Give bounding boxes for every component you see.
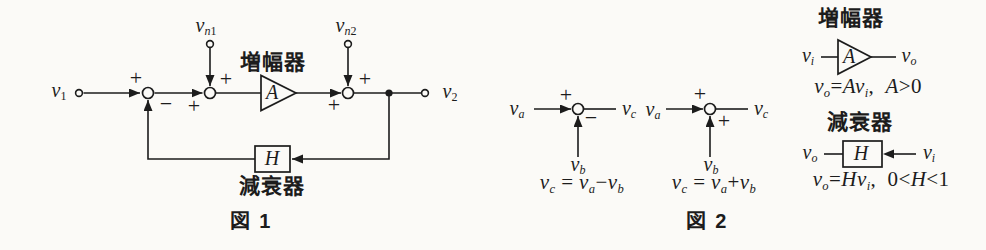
fig2-add-input-a-label: va xyxy=(646,99,661,121)
fig1-sum2-input-plus-sign: + xyxy=(188,95,200,117)
fig2-att-equation: vo=Hvi, 0<H<1 xyxy=(813,169,950,192)
attdef-arrowhead xyxy=(883,150,894,159)
terminal-v2 xyxy=(422,90,429,97)
fig2-att-output-label: vo xyxy=(803,142,818,164)
fig2-amp-gain-letter: A xyxy=(843,46,855,66)
terminal-vn2 xyxy=(345,41,352,48)
fig1-sum1-minus-sign: − xyxy=(160,93,172,115)
fig1-sum3-input-plus-sign: + xyxy=(328,94,340,116)
fig1-caption: 図 1 xyxy=(230,211,273,231)
wire-branch-to-hbox xyxy=(292,93,389,159)
fig2-amp-equation: vo=Avi, A>0 xyxy=(814,76,922,99)
fig1-sum1-plus-sign: + xyxy=(130,67,142,89)
fig1-attenuator-gain-letter: H xyxy=(265,148,279,168)
add-junction xyxy=(705,104,716,115)
summing-junction-3 xyxy=(343,88,354,99)
fig2-amp-input-label: vi xyxy=(802,45,814,67)
fig1-noise-vn1-label: vn1 xyxy=(196,15,217,37)
fig1-noise-vn2-label: vn2 xyxy=(336,15,357,37)
fig2-amplifier-title: 増幅器 xyxy=(818,8,884,29)
fig2-sub-equation: vc = va−vb xyxy=(540,172,624,195)
fig1-sum3-noise-plus-sign: + xyxy=(359,68,371,90)
fig1-output-v2-label: v2 xyxy=(443,81,458,103)
fig2-sub-output-c-label: vc xyxy=(622,98,636,120)
textbook-figure: v1 vn1 vn2 v2 + − + + + + 増幅器 A H 減衰器 図 … xyxy=(0,0,986,250)
fig2-add-equation: vc = va+vb xyxy=(672,172,756,195)
fig2-add-plus-sign-side: + xyxy=(718,110,730,132)
fig2-caption: 図 2 xyxy=(686,211,729,231)
fig2-add-plus-sign-top: + xyxy=(694,83,706,105)
fig1-amplifier-gain-letter: A xyxy=(266,82,278,102)
fig2-amp-output-label: vo xyxy=(902,45,917,67)
sub-junction xyxy=(573,104,584,115)
terminal-vn1 xyxy=(207,41,214,48)
summing-junction-1 xyxy=(143,88,154,99)
fig2-sub-input-a-label: va xyxy=(510,98,525,120)
fig1-amplifier-label: 増幅器 xyxy=(240,52,306,73)
fig1-sum2-noise-plus-sign: + xyxy=(220,68,232,90)
fig2-att-input-label: vi xyxy=(923,142,935,164)
fig2-att-gain-letter: H xyxy=(854,143,868,163)
fig1-attenuator-label: 減衰器 xyxy=(239,176,305,197)
branch-dot xyxy=(385,89,392,96)
terminal-v1 xyxy=(76,90,83,97)
fig2-sub-minus-sign: − xyxy=(585,107,597,129)
fig2-sub-plus-sign: + xyxy=(560,84,572,106)
fig1-input-v1-label: v1 xyxy=(52,80,67,102)
fig2-add-output-c-label: vc xyxy=(754,98,768,120)
fig2-attenuator-title: 減衰器 xyxy=(827,112,893,133)
summing-junction-2 xyxy=(205,88,216,99)
